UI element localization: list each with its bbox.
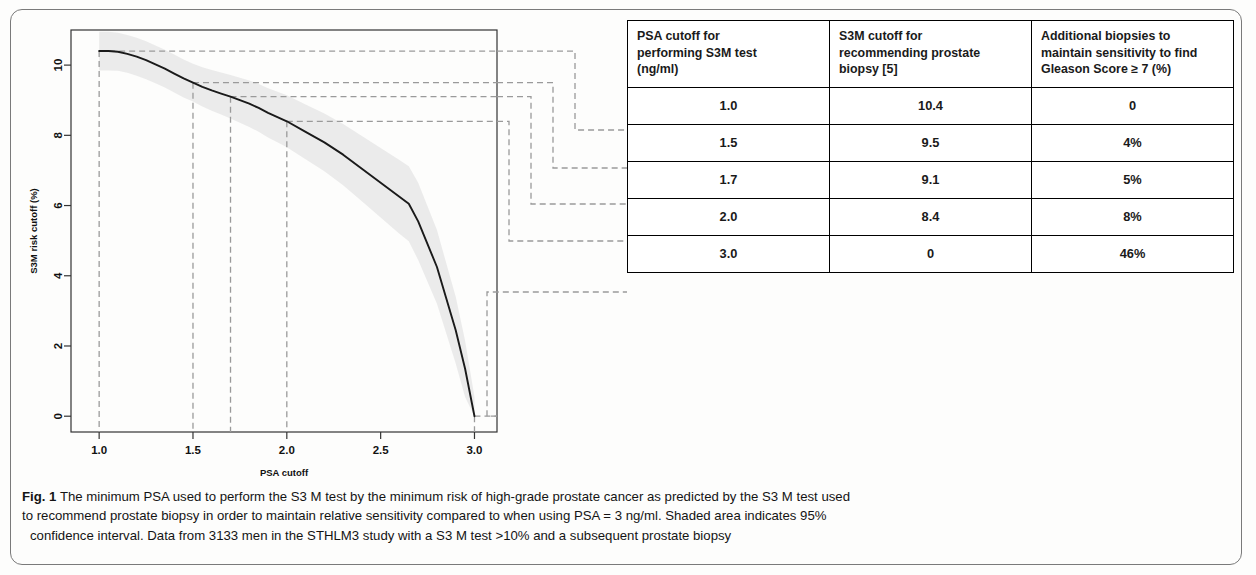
cell-additional-biopsies: 8%: [1032, 198, 1234, 235]
header-line: (ng/ml): [637, 62, 678, 76]
header-line: PSA cutoff for: [637, 29, 720, 43]
figure-caption: Fig. 1 The minimum PSA used to perform t…: [22, 487, 1238, 545]
table-header-row: PSA cutoff for performing S3M test (ng/m…: [628, 21, 1234, 88]
header-line: recommending prostate: [839, 46, 980, 60]
summary-table: PSA cutoff for performing S3M test (ng/m…: [627, 20, 1233, 314]
x-tick-label: 3.0: [466, 444, 482, 456]
caption-line-3: confidence interval. Data from 3133 men …: [22, 526, 1238, 545]
cutoff-table: PSA cutoff for performing S3M test (ng/m…: [627, 20, 1234, 273]
y-tick-label: 8: [52, 132, 64, 139]
header-line: maintain sensitivity to find: [1041, 46, 1197, 60]
cell-s3m-cutoff: 9.5: [830, 124, 1032, 161]
header-line: biopsy [5]: [839, 62, 898, 76]
cell-psa-cutoff: 1.0: [628, 87, 830, 124]
cell-additional-biopsies: 0: [1032, 87, 1234, 124]
header-line: S3M cutoff for: [839, 29, 922, 43]
cell-additional-biopsies: 5%: [1032, 161, 1234, 198]
x-axis-label: PSA cutoff: [260, 467, 309, 478]
y-tick-label: 10: [52, 59, 64, 72]
x-tick-label: 1.5: [185, 444, 202, 456]
table-row: 1.5 9.5 4%: [628, 124, 1234, 161]
y-tick-label: 2: [52, 343, 64, 349]
column-header-s3m-cutoff: S3M cutoff for recommending prostate bio…: [830, 21, 1032, 88]
chart-svg: 1.01.52.02.53.0PSA cutoff0246810S3M risk…: [18, 18, 518, 478]
cell-s3m-cutoff: 10.4: [830, 87, 1032, 124]
table-row: 1.7 9.1 5%: [628, 161, 1234, 198]
table-row: 3.0 0 46%: [628, 235, 1234, 272]
y-tick-label: 0: [52, 413, 64, 419]
cell-psa-cutoff: 1.5: [628, 124, 830, 161]
figure-panel: 1.01.52.02.53.0PSA cutoff0246810S3M risk…: [0, 0, 1256, 575]
column-header-additional-biopsies: Additional biopsies to maintain sensitiv…: [1032, 21, 1234, 88]
table-row: 1.0 10.4 0: [628, 87, 1234, 124]
cell-s3m-cutoff: 0: [830, 235, 1032, 272]
caption-line-1: The minimum PSA used to perform the S3 M…: [60, 489, 850, 504]
cell-additional-biopsies: 4%: [1032, 124, 1234, 161]
x-tick-label: 1.0: [91, 444, 107, 456]
cell-s3m-cutoff: 9.1: [830, 161, 1032, 198]
line-chart: 1.01.52.02.53.0PSA cutoff0246810S3M risk…: [18, 18, 518, 478]
caption-line-2: to recommend prostate biopsy in order to…: [22, 506, 1238, 525]
x-tick-label: 2.0: [279, 444, 295, 456]
cell-s3m-cutoff: 8.4: [830, 198, 1032, 235]
table-row: 2.0 8.4 8%: [628, 198, 1234, 235]
cell-psa-cutoff: 1.7: [628, 161, 830, 198]
y-axis-label: S3M risk cutoff (%): [28, 188, 39, 274]
header-line: Gleason Score ≥ 7 (%): [1041, 62, 1171, 76]
header-line: Additional biopsies to: [1041, 29, 1170, 43]
x-tick-label: 2.5: [373, 444, 390, 456]
header-line: performing S3M test: [637, 46, 757, 60]
cell-additional-biopsies: 46%: [1032, 235, 1234, 272]
y-tick-label: 6: [52, 202, 64, 208]
cell-psa-cutoff: 3.0: [628, 235, 830, 272]
column-header-psa-cutoff: PSA cutoff for performing S3M test (ng/m…: [628, 21, 830, 88]
cell-psa-cutoff: 2.0: [628, 198, 830, 235]
figure-number: Fig. 1: [22, 489, 56, 504]
y-tick-label: 4: [52, 272, 64, 279]
